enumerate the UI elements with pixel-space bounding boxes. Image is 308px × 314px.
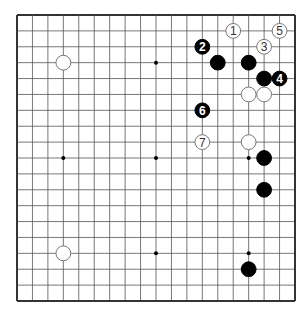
white-stone-icon	[241, 135, 256, 150]
star-point-icon	[154, 156, 158, 160]
black-stone-icon	[241, 262, 256, 277]
white-stone	[56, 246, 71, 261]
black-stone-move-4: 4	[272, 71, 287, 86]
black-stone	[257, 151, 272, 166]
white-stone-icon	[241, 87, 256, 102]
white-stone-icon	[56, 55, 71, 70]
star-point-icon	[247, 156, 251, 160]
white-stone	[241, 135, 256, 150]
black-stone	[241, 262, 256, 277]
white-stone-icon	[56, 246, 71, 261]
black-stone-icon	[257, 71, 272, 86]
black-stone-icon	[257, 151, 272, 166]
black-stone-move-2: 2	[195, 39, 210, 54]
star-point-icon	[247, 251, 251, 255]
move-number: 5	[276, 24, 283, 38]
black-stone-icon	[241, 55, 256, 70]
star-point-icon	[154, 61, 158, 65]
white-stone-move-7: 7	[195, 135, 210, 150]
white-stone	[257, 87, 272, 102]
move-number: 3	[261, 40, 268, 54]
move-number: 6	[199, 104, 206, 118]
white-stone	[56, 55, 71, 70]
black-stone-icon	[257, 182, 272, 197]
white-stone-move-3: 3	[257, 39, 272, 54]
star-point-icon	[61, 156, 65, 160]
black-stone	[257, 182, 272, 197]
move-number: 7	[199, 136, 206, 150]
white-stone-move-5: 5	[272, 23, 287, 38]
black-stone	[241, 55, 256, 70]
black-stone-icon	[210, 55, 225, 70]
black-stone-move-6: 6	[195, 103, 210, 118]
move-number: 2	[199, 40, 206, 54]
move-number: 4	[276, 72, 283, 86]
white-stone-icon	[257, 87, 272, 102]
white-stone	[241, 87, 256, 102]
black-stone	[210, 55, 225, 70]
star-point-icon	[154, 251, 158, 255]
black-stone	[257, 71, 272, 86]
go-board: 1234567	[0, 0, 308, 314]
white-stone-move-1: 1	[226, 23, 241, 38]
move-number: 1	[230, 24, 237, 38]
